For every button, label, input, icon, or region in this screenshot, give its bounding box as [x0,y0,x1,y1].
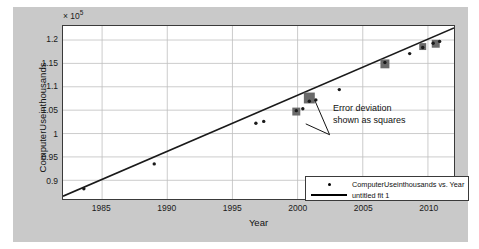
annotation-error-deviation: Error deviation shown as squares [333,102,406,126]
y-tick-label: 1.2 [16,34,58,44]
annotation-line-2: shown as squares [333,114,406,126]
x-tick-label: 2005 [354,203,373,213]
plot-area: Error deviation shown as squares Compute… [62,25,455,200]
dot-marker-icon [306,183,352,186]
x-tick-label: 2010 [419,203,438,213]
x-axis-tick-labels: 198519901995200020052010 [62,203,455,217]
x-tick-label: 1990 [157,203,176,213]
legend-entry-fit[interactable]: untitled fit 1 [306,189,468,201]
annotation-leader-lines [306,100,330,135]
legend-label-data: ComputerUseinthousands vs. Year [352,180,464,189]
y-tick-label: 1.1 [16,81,58,91]
x-axis-title: Year [62,217,455,228]
y-axis-exponent-label: × 105 [63,9,83,21]
y-tick-label: 0.9 [16,176,58,186]
x-tick-label: 1985 [92,203,111,213]
y-axis-exponent-base: × 10 [63,11,80,21]
annotation-line-1: Error deviation [333,102,406,114]
y-tick-label: 1.05 [16,105,58,115]
legend-label-fit: untitled fit 1 [352,191,389,200]
y-axis-exponent-power: 5 [80,9,84,16]
x-tick-label: 1995 [223,203,242,213]
y-tick-label: 1 [16,129,58,139]
chart-legend[interactable]: ComputerUseinthousands vs. Year untitled… [305,176,469,201]
y-tick-label: 1.15 [16,58,58,68]
line-marker-icon [306,194,352,196]
x-tick-label: 2000 [288,203,307,213]
y-tick-label: 0.95 [16,152,58,162]
y-axis-tick-labels: 0.90.9511.051.11.151.2 [13,25,58,200]
figure-panel: × 105 ComputerUseinthousands 0.90.9511.0… [13,7,468,242]
